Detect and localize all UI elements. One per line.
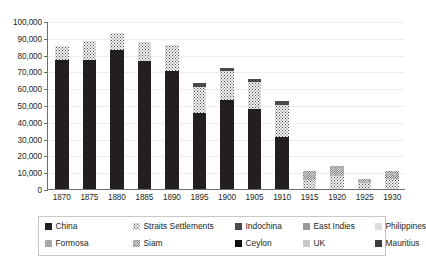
legend-swatch-icon [303, 240, 310, 247]
x-axis-label: 1905 [246, 193, 264, 202]
y-axis-tick [44, 123, 48, 124]
bar-segment [275, 137, 289, 189]
y-axis-tick [44, 190, 48, 191]
bar-stack[interactable] [165, 45, 179, 189]
x-axis-label: 1925 [356, 193, 374, 202]
legend-item[interactable]: Ceylon [235, 238, 272, 248]
legend-item[interactable]: China [45, 221, 77, 231]
x-axis-label: 1915 [301, 193, 319, 202]
legend-swatch-icon [303, 223, 310, 230]
legend-item[interactable]: Straits Settlements [133, 221, 214, 231]
y-axis-tick [44, 56, 48, 57]
legend-swatch-icon [235, 240, 242, 247]
legend-item-label: Straits Settlements [144, 221, 214, 231]
gridline [48, 56, 405, 57]
legend-item[interactable]: East Indies [303, 221, 355, 231]
legend-swatch-icon [45, 240, 52, 247]
bar-segment [220, 100, 234, 189]
bar-segment [83, 60, 97, 189]
x-axis-label: 1910 [273, 193, 291, 202]
x-axis-label: 1880 [108, 193, 126, 202]
gridline [48, 22, 405, 23]
y-axis-tick [44, 89, 48, 90]
bar-segment [275, 105, 289, 137]
legend-row [44, 237, 380, 254]
y-axis-tick [44, 156, 48, 157]
plot-area: 010,00020,00030,00040,00050,00060,00070,… [47, 22, 405, 190]
x-axis-label: 1875 [80, 193, 98, 202]
bar-stack[interactable] [220, 68, 234, 189]
bar-stack[interactable] [358, 179, 372, 189]
legend-item-label: Siam [144, 238, 163, 248]
legend-item-label: East Indies [314, 221, 355, 231]
legend-item[interactable]: Mauritius [375, 238, 419, 248]
legend-item-label: Indochina [246, 221, 282, 231]
x-axis-label: 1895 [191, 193, 209, 202]
bar-segment [165, 71, 179, 189]
x-axis-label: 1900 [218, 193, 236, 202]
legend-swatch-icon [235, 223, 242, 230]
legend-swatch-icon [375, 223, 382, 230]
legend-item[interactable]: Indochina [235, 221, 282, 231]
bar-stack[interactable] [55, 46, 69, 189]
bar-segment [248, 82, 262, 109]
bar-segment [303, 180, 317, 189]
legend-item-label: Ceylon [246, 238, 272, 248]
bar-stack[interactable] [248, 79, 262, 189]
y-axis-label: 0 [38, 186, 42, 195]
bar-segment [165, 45, 179, 70]
bar-segment [193, 113, 207, 189]
y-axis-label: 90,000 [18, 34, 42, 43]
legend-swatch-icon [133, 223, 140, 230]
y-axis-label: 40,000 [18, 118, 42, 127]
bar-stack[interactable] [193, 83, 207, 189]
legend-swatch-icon [45, 223, 52, 230]
bar-stack[interactable] [330, 166, 344, 190]
x-axis-label: 1920 [328, 193, 346, 202]
y-axis-tick [44, 39, 48, 40]
bar-stack[interactable] [275, 101, 289, 189]
legend-item[interactable]: Philippines [375, 221, 426, 231]
y-axis-label: 60,000 [18, 85, 42, 94]
bar-stack[interactable] [385, 171, 399, 189]
bar-segment [385, 171, 399, 179]
legend-swatch-icon [133, 240, 140, 247]
legend-swatch-icon [375, 240, 382, 247]
y-axis-label: 50,000 [18, 102, 42, 111]
x-axis-label: 1930 [383, 193, 401, 202]
bar-stack[interactable] [110, 33, 124, 189]
y-axis-tick [44, 72, 48, 73]
x-axis-label: 1890 [163, 193, 181, 202]
bar-segment [138, 61, 152, 189]
bar-segment [110, 50, 124, 189]
bar-stack[interactable] [303, 171, 317, 189]
chart-legend: ChinaStraits SettlementsIndochinaEast In… [38, 216, 386, 256]
legend-item[interactable]: Siam [133, 238, 163, 248]
y-axis-label: 10,000 [18, 169, 42, 178]
y-axis-label: 100,000 [13, 18, 42, 27]
legend-item-label: UK [314, 238, 326, 248]
bar-segment [110, 33, 124, 50]
bar-segment [385, 179, 399, 189]
y-axis-tick [44, 173, 48, 174]
bar-segment [330, 176, 344, 189]
legend-item[interactable]: Formosa [45, 238, 89, 248]
bar-segment [358, 183, 372, 189]
bar-segment [193, 87, 207, 114]
legend-item-label: China [56, 221, 78, 231]
bar-segment [303, 171, 317, 179]
x-axis-label: 1870 [53, 193, 71, 202]
legend-item-label: Philippines [386, 221, 426, 231]
y-axis-tick [44, 140, 48, 141]
bar-segment [55, 60, 69, 189]
legend-item[interactable]: UK [303, 238, 325, 248]
bar-stack[interactable] [83, 41, 97, 189]
y-axis-label: 80,000 [18, 51, 42, 60]
y-axis-label: 30,000 [18, 135, 42, 144]
y-axis-label: 70,000 [18, 68, 42, 77]
bar-segment [248, 109, 262, 189]
bar-stack[interactable] [138, 42, 152, 189]
y-axis-tick [44, 106, 48, 107]
legend-item-label: Mauritius [386, 238, 420, 248]
bar-segment [83, 41, 97, 59]
